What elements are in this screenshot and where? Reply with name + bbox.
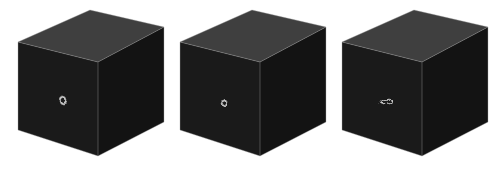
cube-3-front-face [0,0,498,179]
cube-2-side-face [0,0,498,179]
cube-3-outline [342,10,488,156]
cube-3-top-face [0,0,498,179]
cube-3-side-face [0,0,498,179]
cube-1-outline [18,10,164,156]
cube-2-top-face [0,0,498,179]
cube-1 [0,0,498,179]
cube-2-outline [180,10,326,156]
cube-1-side-face [0,0,498,179]
cube-1-front-face [0,0,498,179]
cube-2 [0,0,498,179]
cube-2-front-face [0,0,498,179]
texture-comparison-scene [0,0,498,179]
cube-1-top-face [0,0,498,179]
cube-3 [0,0,498,179]
